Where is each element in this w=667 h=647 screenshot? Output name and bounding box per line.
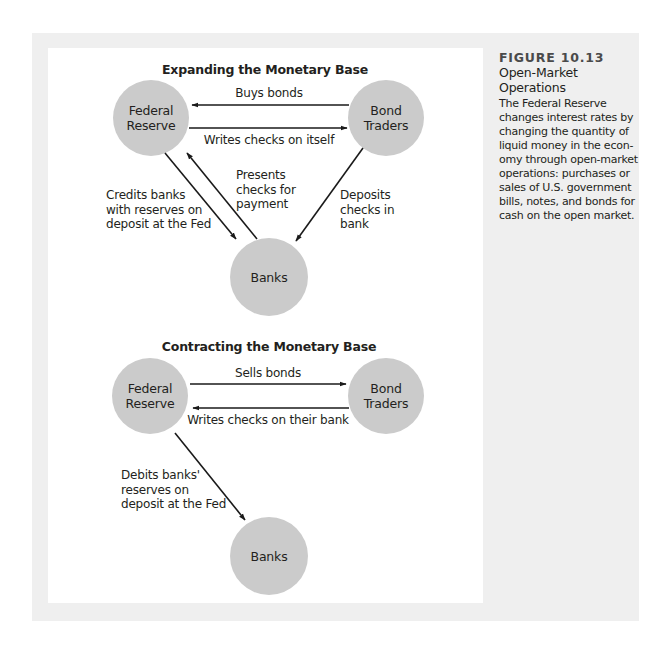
body-line: sales of U.S. government <box>499 181 639 195</box>
body-line: bills, notes, and bonds for <box>499 195 639 209</box>
traders-label-line: Bond <box>364 381 408 396</box>
banks-label-line: Banks <box>251 549 288 564</box>
deposits-checks-label: Deposits checks in bank <box>340 188 394 232</box>
figure-caption: FIGURE 10.13 Open-Market Operations The … <box>499 50 639 223</box>
writes-checks-itself-label: Writes checks on itself <box>204 133 334 148</box>
expanding-fed-label: Federal Reserve <box>127 103 176 133</box>
label-line: deposit at the Fed <box>121 497 226 512</box>
label-line: with reserves on <box>106 203 211 218</box>
traders-label-line: Bond <box>364 103 408 118</box>
body-line: liquid money in the econ- <box>499 139 639 153</box>
label-line: Debits banks' <box>121 468 226 483</box>
traders-label-line: Traders <box>364 396 408 411</box>
figure-number: FIGURE 10.13 <box>499 50 639 65</box>
contracting-traders-label: Bond Traders <box>364 381 408 411</box>
label-line: Presents <box>236 168 296 183</box>
debits-banks-label: Debits banks' reserves on deposit at the… <box>121 468 226 512</box>
label-line: checks for <box>236 183 296 198</box>
figure-title: Open-Market Operations <box>499 66 639 95</box>
contracting-fed-label: Federal Reserve <box>126 381 175 411</box>
banks-label-line: Banks <box>251 270 288 285</box>
label-line: deposit at the Fed <box>106 217 211 232</box>
sells-bonds-label: Sells bonds <box>235 366 301 381</box>
body-line: changes interest rates by <box>499 111 639 125</box>
label-line: payment <box>236 197 296 212</box>
buys-bonds-label: Buys bonds <box>235 86 302 101</box>
traders-label-line: Traders <box>364 118 408 133</box>
label-line: Deposits <box>340 188 394 203</box>
writes-checks-their-bank-label: Writes checks on their bank <box>187 413 349 428</box>
body-line: cash on the open market. <box>499 209 639 223</box>
body-line: The Federal Reserve <box>499 97 639 111</box>
expanding-traders-label: Bond Traders <box>364 103 408 133</box>
label-line: Credits banks <box>106 188 211 203</box>
body-line: changing the quantity of <box>499 125 639 139</box>
label-line: checks in <box>340 203 394 218</box>
contracting-title: Contracting the Monetary Base <box>162 339 376 354</box>
body-line: operations: purchases or <box>499 167 639 181</box>
figure-description: The Federal Reserve changes interest rat… <box>499 97 639 223</box>
fed-label-line: Federal <box>126 381 175 396</box>
expanding-banks-label: Banks <box>251 270 288 285</box>
credits-banks-label: Credits banks with reserves on deposit a… <box>106 188 211 232</box>
label-line: bank <box>340 217 394 232</box>
body-line: omy through open-market <box>499 153 639 167</box>
presents-checks-label: Presents checks for payment <box>236 168 296 212</box>
contracting-banks-label: Banks <box>251 549 288 564</box>
label-line: reserves on <box>121 483 226 498</box>
title-line: Operations <box>499 81 639 96</box>
expanding-title: Expanding the Monetary Base <box>162 62 368 77</box>
fed-label-line: Reserve <box>126 396 175 411</box>
title-line: Open-Market <box>499 66 639 81</box>
fed-label-line: Reserve <box>127 118 176 133</box>
fed-label-line: Federal <box>127 103 176 118</box>
